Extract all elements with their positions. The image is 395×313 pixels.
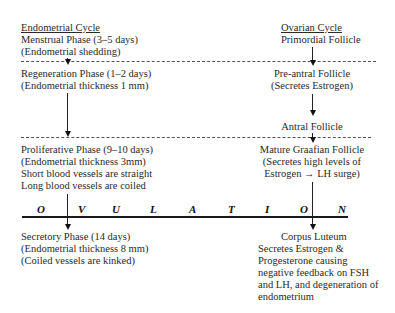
corpus-luteum-desc-5: endometrium bbox=[258, 291, 314, 304]
arrow-shaft-graafian-to-corpus-luteum bbox=[312, 182, 313, 227]
preantral-follicle-desc: (Secretes Estrogen) bbox=[262, 80, 362, 93]
ovarian-cycle-header: Ovarian Cycle bbox=[281, 22, 342, 35]
arrow-down-icon bbox=[65, 131, 71, 137]
secretory-phase-vessels: (Coiled vessels are kinked) bbox=[21, 255, 135, 268]
menstrual-phase-desc: (Endometrial shedding) bbox=[21, 46, 120, 59]
arrow-down-icon bbox=[65, 59, 71, 65]
ovulation-letter: V bbox=[78, 203, 85, 215]
ovulation-letter: A bbox=[189, 203, 196, 215]
corpus-luteum-desc-1: Secretes Estrogen & bbox=[258, 243, 344, 256]
arrow-shaft-proliferative-to-secretory bbox=[67, 194, 68, 227]
arrow-down-icon bbox=[310, 110, 316, 116]
dashed-divider-1 bbox=[21, 61, 376, 62]
arrow-down-icon bbox=[310, 60, 316, 66]
ovulation-letter: L bbox=[150, 203, 157, 215]
ovulation-letter: O bbox=[37, 203, 45, 215]
arrow-down-icon bbox=[310, 224, 316, 230]
proliferative-phase-label: Proliferative Phase (9–10 days) bbox=[21, 144, 153, 157]
graafian-follicle-desc-1: (Secretes high levels of bbox=[252, 156, 372, 169]
ovulation-letter: I bbox=[265, 203, 269, 215]
graafian-follicle-desc-2: Estrogen → LH surge) bbox=[252, 168, 372, 181]
ovulation-letter: T bbox=[228, 203, 235, 215]
regeneration-phase-label: Regeneration Phase (1–2 days) bbox=[21, 68, 151, 81]
proliferative-phase-short-vessels: Short blood vessels are straight bbox=[21, 168, 152, 181]
endometrial-cycle-header: Endometrial Cycle bbox=[21, 22, 100, 35]
ovulation-letter: N bbox=[338, 203, 346, 215]
preantral-follicle-label: Pre-antral Follicle bbox=[262, 68, 362, 81]
regeneration-phase-desc: (Endometrial thickness 1 mm) bbox=[21, 80, 148, 93]
arrow-down-icon bbox=[65, 224, 71, 230]
corpus-luteum-title: Corpus Luteum bbox=[281, 231, 347, 244]
corpus-luteum-desc-4: and LH, and degeneration of bbox=[258, 279, 378, 292]
primordial-follicle-label: Primordial Follicle bbox=[281, 34, 361, 47]
dashed-divider-2 bbox=[21, 137, 371, 138]
ovulation-letter: U bbox=[112, 203, 120, 215]
corpus-luteum-desc-2: Progesterone causing bbox=[258, 255, 348, 268]
ovulation-letter: O bbox=[300, 203, 308, 215]
graafian-follicle-label: Mature Graafian Follicle bbox=[252, 144, 372, 157]
antral-follicle-label: Antral Follicle bbox=[262, 121, 362, 134]
secretory-phase-thickness: (Endometrial thickness 8 mm) bbox=[21, 243, 148, 256]
secretory-phase-label: Secretory Phase (14 days) bbox=[21, 231, 130, 244]
ovulation-timeline bbox=[22, 216, 348, 218]
arrow-down-icon bbox=[310, 137, 316, 143]
menstrual-phase-label: Menstrual Phase (3–5 days) bbox=[21, 34, 138, 47]
proliferative-phase-thickness: (Endometrial thickness 3mm) bbox=[21, 156, 146, 169]
arrow-shaft-regeneration-to-proliferative bbox=[67, 93, 68, 133]
corpus-luteum-desc-3: negative feedback on FSH bbox=[258, 267, 369, 280]
proliferative-phase-long-vessels: Long blood vessels are coiled bbox=[21, 180, 146, 193]
